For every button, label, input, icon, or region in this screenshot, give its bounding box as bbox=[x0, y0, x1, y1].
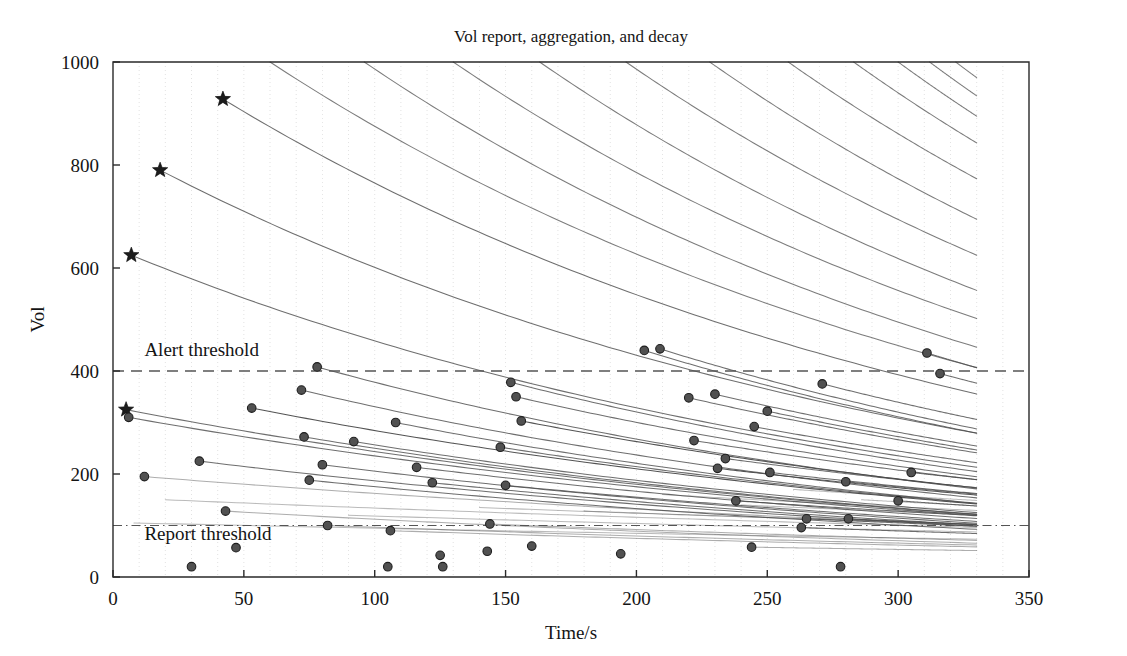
chart-title: Vol report, aggregation, and decay bbox=[454, 27, 688, 46]
alert-threshold-label: Alert threshold bbox=[144, 339, 259, 360]
dot-marker bbox=[391, 418, 400, 427]
dot-marker bbox=[684, 393, 693, 402]
dot-marker bbox=[412, 463, 421, 472]
report-threshold-label: Report threshold bbox=[144, 523, 272, 544]
dot-marker bbox=[844, 515, 853, 524]
dot-marker bbox=[766, 468, 775, 477]
dot-marker bbox=[527, 542, 536, 551]
vol-decay-chart: Vol report, aggregation, and decay050100… bbox=[0, 0, 1127, 656]
dot-marker bbox=[124, 413, 133, 422]
chart-container: Vol report, aggregation, and decay050100… bbox=[0, 0, 1127, 656]
dot-marker bbox=[923, 349, 932, 358]
dot-marker bbox=[750, 422, 759, 431]
dot-marker bbox=[232, 543, 241, 552]
x-tick-label: 150 bbox=[491, 588, 520, 609]
dot-marker bbox=[140, 472, 149, 481]
dot-marker bbox=[836, 562, 845, 571]
dot-marker bbox=[428, 478, 437, 487]
dot-marker bbox=[842, 477, 851, 486]
dot-marker bbox=[486, 520, 495, 529]
dot-marker bbox=[507, 378, 516, 387]
dot-marker bbox=[297, 386, 306, 395]
y-tick-label: 800 bbox=[71, 155, 100, 176]
y-tick-label: 200 bbox=[71, 464, 100, 485]
dot-marker bbox=[732, 496, 741, 505]
dot-marker bbox=[221, 507, 230, 516]
dot-marker bbox=[640, 346, 649, 355]
dot-marker bbox=[517, 417, 526, 426]
dot-marker bbox=[323, 521, 332, 530]
dot-marker bbox=[713, 464, 722, 473]
dot-marker bbox=[195, 457, 204, 466]
dot-marker bbox=[313, 363, 322, 372]
dot-marker bbox=[512, 392, 521, 401]
y-tick-label: 1000 bbox=[61, 52, 99, 73]
dot-marker bbox=[802, 515, 811, 524]
x-tick-label: 50 bbox=[234, 588, 253, 609]
y-axis-label: Vol bbox=[27, 306, 48, 332]
dot-marker bbox=[318, 460, 327, 469]
dot-marker bbox=[894, 496, 903, 505]
dot-marker bbox=[386, 526, 395, 535]
x-axis-label: Time/s bbox=[545, 622, 597, 643]
dot-marker bbox=[690, 436, 699, 445]
y-tick-label: 0 bbox=[90, 567, 100, 588]
dot-marker bbox=[711, 390, 720, 399]
dot-marker bbox=[936, 369, 945, 378]
y-tick-label: 600 bbox=[71, 258, 100, 279]
dot-marker bbox=[501, 481, 510, 490]
dot-marker bbox=[438, 562, 447, 571]
dot-marker bbox=[247, 404, 256, 413]
dot-marker bbox=[305, 476, 314, 485]
dot-marker bbox=[384, 562, 393, 571]
dot-marker bbox=[349, 437, 358, 446]
dot-marker bbox=[747, 543, 756, 552]
x-tick-label: 250 bbox=[753, 588, 782, 609]
dot-marker bbox=[797, 523, 806, 532]
dot-marker bbox=[721, 454, 730, 463]
x-tick-label: 200 bbox=[622, 588, 651, 609]
dot-marker bbox=[656, 345, 665, 354]
dot-marker bbox=[187, 562, 196, 571]
dot-marker bbox=[300, 433, 309, 442]
x-tick-label: 0 bbox=[108, 588, 118, 609]
dot-marker bbox=[436, 551, 445, 560]
dot-marker bbox=[616, 550, 625, 559]
x-tick-label: 300 bbox=[884, 588, 913, 609]
dot-marker bbox=[496, 443, 505, 452]
y-tick-label: 400 bbox=[71, 361, 100, 382]
dot-marker bbox=[763, 407, 772, 416]
dot-marker bbox=[818, 380, 827, 389]
dot-marker bbox=[483, 547, 492, 556]
x-tick-label: 100 bbox=[360, 588, 389, 609]
x-tick-label: 350 bbox=[1015, 588, 1044, 609]
dot-marker bbox=[907, 468, 916, 477]
chart-background bbox=[0, 0, 1127, 656]
